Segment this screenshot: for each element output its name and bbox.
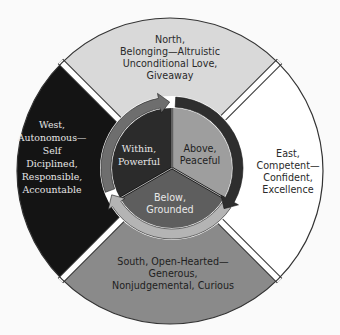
above-line-2: Peaceful [180, 155, 221, 167]
west-line-4: Diciplined, [18, 157, 87, 170]
north-line-1: North, [120, 34, 220, 46]
north-line-3: Unconditional Love, [120, 58, 220, 70]
inner-label-within: Within, Powerful [118, 142, 160, 168]
quadrant-label-east: East, Competent— Confident, Excellence [256, 148, 319, 196]
below-line-1: Below, [146, 192, 193, 204]
west-line-2: Autonomous— [18, 131, 87, 144]
inner-label-below: Below, Grounded [146, 192, 193, 216]
south-line-1: South, Open-Hearted— [112, 256, 234, 268]
south-line-2: Generous, [112, 268, 234, 280]
north-line-2: Belonging—Altruistic [120, 46, 220, 58]
east-line-2: Competent— [256, 160, 319, 172]
within-line-2: Powerful [118, 155, 160, 168]
east-line-1: East, [256, 148, 319, 160]
east-line-3: Confident, [256, 172, 319, 184]
north-line-4: Giveaway [120, 70, 220, 82]
south-line-3: Nonjudgemental, Curious [112, 280, 234, 292]
east-line-4: Excellence [256, 184, 319, 196]
within-line-1: Within, [118, 142, 160, 155]
west-line-3: Self [18, 144, 87, 157]
west-line-1: West, [18, 118, 87, 131]
above-line-1: Above, [180, 143, 221, 155]
west-line-6: Accountable [18, 183, 87, 196]
west-line-5: Responsible, [18, 170, 87, 183]
quadrant-label-west: West, Autonomous— Self Diciplined, Respo… [18, 118, 87, 196]
quadrant-label-south: South, Open-Hearted— Generous, Nonjudgem… [112, 256, 234, 292]
medicine-wheel-diagram: North, Belonging—Altruistic Unconditiona… [0, 0, 340, 335]
inner-label-above: Above, Peaceful [180, 143, 221, 167]
quadrant-label-north: North, Belonging—Altruistic Unconditiona… [120, 34, 220, 82]
below-line-2: Grounded [146, 204, 193, 216]
